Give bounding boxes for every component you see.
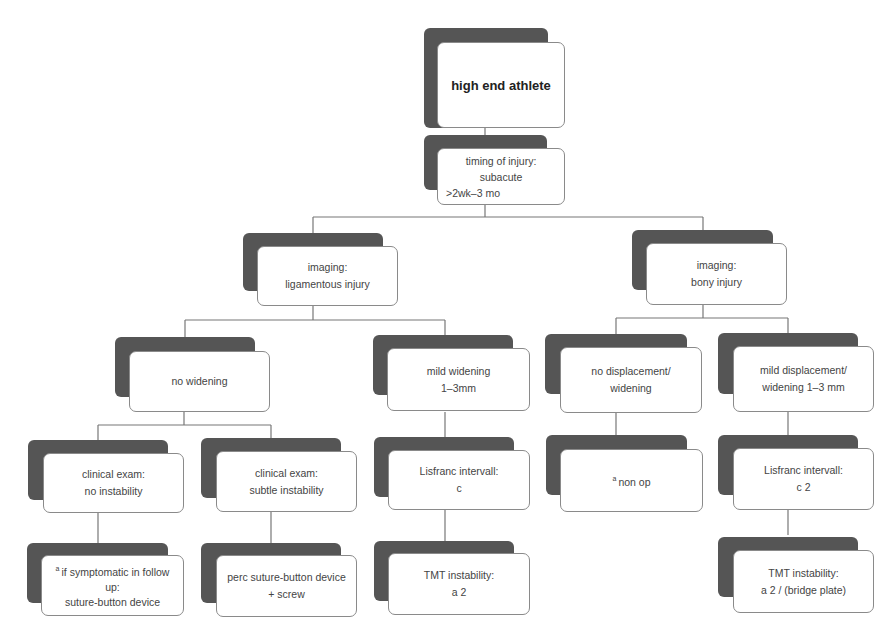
node-label: bony injury: [691, 274, 742, 291]
footnote-marker: a: [612, 475, 616, 482]
node-label: imaging:: [308, 259, 348, 276]
node-label: up:: [105, 580, 120, 595]
node-label: no instability: [85, 483, 143, 500]
node-label: clinical exam:: [82, 466, 145, 483]
node-label: timing of injury:: [466, 153, 537, 169]
node-label: anon op: [612, 470, 650, 491]
node-label: no widening: [171, 373, 227, 390]
node-label: Lisfranc intervall:: [420, 463, 499, 480]
node-label: TMT instability:: [424, 567, 494, 584]
node-label: c: [456, 480, 461, 497]
node-label: perc suture-button device: [227, 569, 345, 586]
node-label: high end athlete: [451, 77, 551, 94]
node-label: imaging:: [697, 257, 737, 274]
node-label: 1–3mm: [441, 380, 476, 397]
node-label: subacute: [480, 169, 523, 185]
node-label: suture-button device: [65, 595, 160, 610]
node-label: Lisfranc intervall:: [764, 462, 843, 479]
node-label: mild widening: [427, 363, 491, 380]
node-label: c 2: [796, 479, 810, 496]
node-label: TMT instability:: [768, 565, 838, 582]
node-label: + screw: [268, 586, 304, 603]
node-label: no displacement/: [591, 363, 670, 380]
node-label: ligamentous injury: [285, 276, 370, 293]
node-label: >2wk–3 mo: [438, 185, 500, 201]
node-label: clinical exam:: [255, 465, 318, 482]
node-label: aif symptomatic in follow: [56, 561, 170, 580]
node-label: widening 1–3 mm: [762, 379, 844, 396]
footnote-marker: a: [56, 565, 60, 572]
node-label: widening: [610, 380, 651, 397]
node-label: a 2 / (bridge plate): [761, 582, 846, 599]
node-label: mild displacement/: [760, 362, 847, 379]
node-label: a 2: [452, 584, 467, 601]
node-label: subtle instability: [249, 482, 323, 499]
